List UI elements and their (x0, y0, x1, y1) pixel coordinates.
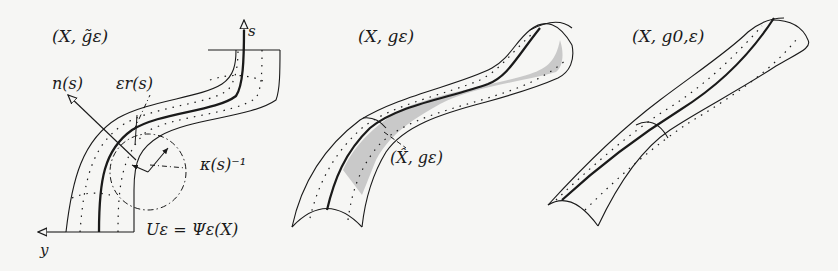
panel-2-tube (292, 22, 573, 227)
y-axis-label: y (40, 243, 48, 258)
radius-label: εr(s) (116, 76, 153, 92)
panel-1-tube (38, 20, 280, 232)
curvature-label: κ(s)⁻¹ (200, 157, 246, 173)
panel-3-tube (548, 18, 809, 226)
tube-label: Uε = Ψε(X) (146, 222, 238, 238)
s-axis-label: s (248, 24, 256, 39)
panel-2-title: (X, gε) (358, 28, 414, 45)
panel-1-title: (X, g̃ε) (52, 28, 108, 45)
normal-vector-label: n(s) (52, 76, 83, 92)
figure-canvas: (X, g̃ε) s n(s) εr(s) κ(s)⁻¹ Uε = Ψε(X) … (0, 0, 838, 271)
figure-drawing (0, 0, 838, 271)
panel-3-title: (X, g0,ε) (632, 28, 704, 45)
subregion-label: (X̂, gε) (390, 150, 443, 166)
